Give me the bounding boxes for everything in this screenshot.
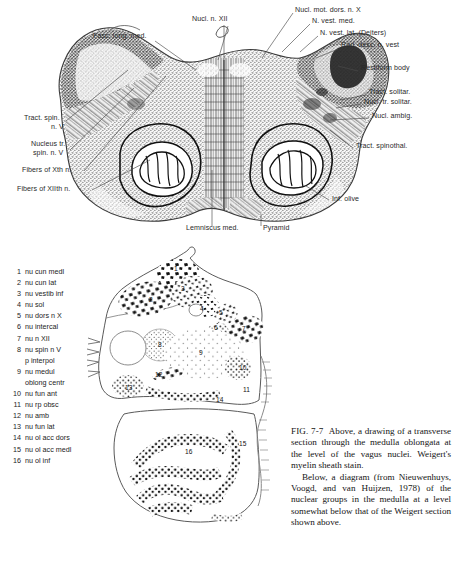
caption-paragraph-2: Below, a diagram (from Nieuwenhuys, Voog…	[291, 472, 451, 529]
label-nucleus-tr-line1: Nucleus tr.	[31, 140, 65, 148]
label-restiform-body: Restiform body	[361, 64, 410, 72]
label-rad-desc-n-vest: Rad. desc. n. vest	[341, 41, 399, 49]
legend-number: 14	[6, 432, 25, 443]
nucleus-10-region	[225, 356, 251, 380]
label-n-vest-lat-deiters: N. vest. lat. (Deiters)	[320, 29, 386, 37]
label-lemniscus-med: Lemniscus med.	[186, 224, 239, 232]
legend-number: 2	[6, 277, 25, 288]
upper-figure-panel	[0, 0, 459, 248]
legend-number: 15	[6, 444, 25, 455]
caption-paragraph-1: FIG. 7-7 Above, a drawing of a transvers…	[291, 426, 451, 472]
legend-number: 3	[6, 288, 25, 299]
legend-number: 11	[6, 399, 25, 410]
diagram-number-1: 1	[174, 265, 178, 272]
legend-number: 5	[6, 310, 25, 321]
medulla-weigert-drawing	[0, 0, 459, 248]
label-inf-olive: Inf. olive	[332, 195, 359, 203]
diagram-number-9: 9	[199, 349, 203, 356]
label-nucl-n-xii: Nucl. n. XII	[192, 15, 228, 23]
legend-number: 6	[6, 321, 25, 332]
legend-number: 10	[6, 388, 25, 399]
diagram-number-4: 4	[200, 305, 204, 312]
label-pyramid: Pyramid	[263, 224, 290, 232]
diagram-number-14: 14	[216, 396, 223, 403]
legend-number: 16	[6, 455, 25, 466]
label-tract-spinothal: Tract. spinothal.	[356, 142, 407, 150]
label-nucl-mot-dors-n-x: Nucl. mot. dors. n. X	[295, 6, 361, 14]
diagram-number-13: 13	[125, 384, 132, 391]
label-nucl-ambig: Nucl. ambig.	[372, 112, 412, 120]
diagram-number-16: 16	[185, 448, 192, 455]
label-n-vest-med: N. vest. med.	[312, 17, 355, 25]
legend-number: 1	[6, 266, 25, 277]
diagram-number-12: 12	[155, 371, 162, 378]
legend-number: 13	[6, 421, 25, 432]
diagram-number-5: 5	[219, 309, 223, 316]
legend-number: 7	[6, 333, 25, 344]
label-fasc-long-med: Fasc. long. med.	[93, 32, 147, 40]
nerve-rootlets	[87, 338, 100, 377]
legend-number: 12	[6, 410, 25, 421]
diagram-number-3: 3	[181, 285, 185, 292]
diagram-number-7: 7	[242, 325, 246, 332]
label-nucleus-tr-line2: spin. n. V	[33, 149, 63, 157]
diagram-number-6: 6	[214, 324, 218, 331]
diagram-number-8: 8	[158, 341, 162, 348]
diagram-number-2: 2	[149, 296, 153, 303]
label-fibers-of-xth-n: Fibers of Xth n.	[22, 166, 71, 174]
diagram-number-11: 11	[243, 386, 250, 393]
figure-caption: FIG. 7-7 Above, a drawing of a transvers…	[291, 426, 451, 529]
figure-number: FIG. 7-7	[291, 426, 323, 436]
legend-number: 4	[6, 299, 25, 310]
label-tract-solitar: Tract. solitar.	[369, 88, 410, 96]
legend-number: 9	[6, 366, 25, 377]
diagram-number-15: 15	[239, 440, 246, 447]
label-tract-spin-n-v-line1: Tract. spin.	[24, 114, 60, 122]
legend-number: 8	[6, 344, 25, 355]
label-tract-spin-n-v-line2: n. V	[51, 123, 64, 131]
diagram-number-10: 10	[239, 364, 246, 371]
label-nucl-tr-solitar: Nucl. tr. solitar.	[364, 98, 412, 106]
lower-figure-panel: 1 2 3 4 5 6 7 8 9 10 11 12 13 14 15 16	[84, 244, 284, 540]
label-fibers-of-xiith-n: Fibers of XIIth n.	[17, 185, 70, 193]
